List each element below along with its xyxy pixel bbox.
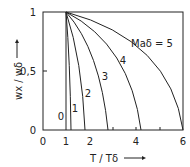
y-tick-0: 0 xyxy=(30,125,36,136)
curve-label-4: 4 xyxy=(120,55,126,66)
x-axis-title: T / Tδ xyxy=(89,153,118,164)
y-axis-title: wx / wδ xyxy=(13,62,24,100)
curve-label-1: 1 xyxy=(72,103,78,114)
curve-label-ma: Maδ = 5 xyxy=(131,38,173,49)
chart: 1 0,5 0 0 1 2 4 6 0 1 2 3 4 Maδ = 5 T / … xyxy=(0,0,190,167)
curve-label-3: 3 xyxy=(102,71,108,82)
curve-label-0: 0 xyxy=(58,111,64,122)
x-tick-1: 1 xyxy=(63,136,69,147)
curve-1 xyxy=(66,12,71,130)
x-tick-2: 2 xyxy=(87,136,93,147)
curve-label-2: 2 xyxy=(85,88,91,99)
curves xyxy=(66,12,183,130)
x-tick-6: 6 xyxy=(180,136,186,147)
x-tick-4: 4 xyxy=(133,136,139,147)
x-tick-0: 0 xyxy=(40,136,46,147)
y-tick-1: 1 xyxy=(30,7,36,18)
